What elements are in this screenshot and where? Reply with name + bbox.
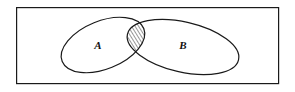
set-b-label: B (178, 39, 186, 51)
universal-set-rectangle (17, 8, 279, 84)
set-a-label: A (93, 39, 101, 51)
venn-diagram-canvas: A B (0, 0, 295, 92)
venn-diagram-figure: A B (0, 0, 295, 92)
